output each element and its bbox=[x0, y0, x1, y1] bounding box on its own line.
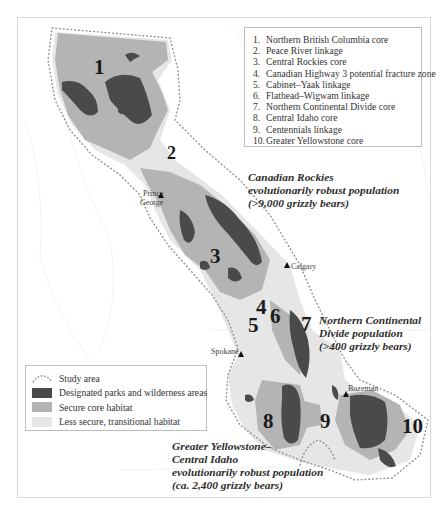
legend-item: 6.Flathead–Wigwam linkage bbox=[253, 90, 421, 101]
habitat-key: Study area Designated parks and wilderne… bbox=[25, 365, 207, 431]
legend-item: 5.Cabinet–Yaak linkage bbox=[253, 79, 421, 90]
triangle-marker-icon bbox=[238, 351, 244, 357]
corridor-legend: 1.Northern British Columbia core 2.Peace… bbox=[244, 27, 422, 147]
key-row-parks: Designated parks and wilderness areas bbox=[32, 386, 206, 401]
legend-item: 4.Canadian Highway 3 potential fracture … bbox=[253, 68, 421, 79]
region-number-3: 3 bbox=[210, 246, 221, 267]
label-greater-yellowstone: Greater Yellowstone– Central Idaho evolu… bbox=[172, 440, 323, 492]
legend-item: 9.Centennials linkage bbox=[253, 124, 421, 135]
key-row-secure-core: Secure core habitat bbox=[32, 400, 206, 415]
legend-item: 8.Central Idaho core bbox=[253, 112, 421, 123]
light-swatch-icon bbox=[32, 417, 52, 427]
region-number-10: 10 bbox=[402, 416, 423, 437]
region-number-9: 9 bbox=[320, 411, 331, 432]
key-row-study-area: Study area bbox=[32, 371, 206, 386]
region-number-6: 6 bbox=[270, 306, 281, 327]
region-number-5: 5 bbox=[248, 315, 259, 336]
city-calgary: Calgary bbox=[291, 262, 316, 271]
legend-item: 10.Greater Yellowstone core bbox=[253, 135, 421, 146]
legend-item: 7.Northern Continental Divide core bbox=[253, 101, 421, 112]
legend-item: 2.Peace River linkage bbox=[253, 45, 421, 56]
region-number-8: 8 bbox=[263, 411, 274, 432]
region-number-1: 1 bbox=[94, 57, 105, 78]
label-northern-continental-divide: Northern Continental Divide population (… bbox=[319, 314, 421, 353]
dotted-outline-icon bbox=[32, 373, 52, 383]
legend-item: 1.Northern British Columbia core bbox=[253, 34, 421, 45]
city-bozeman: Bozeman bbox=[348, 384, 378, 393]
triangle-marker-icon bbox=[284, 262, 290, 268]
legend-item: 3.Central Rockies core bbox=[253, 56, 421, 67]
city-spokane: Spokane bbox=[211, 347, 239, 356]
dark-swatch-icon bbox=[32, 388, 52, 398]
label-canadian-rockies: Canadian Rockies evolutionarily robust p… bbox=[248, 171, 399, 210]
medium-swatch-icon bbox=[32, 402, 52, 412]
triangle-marker-icon bbox=[158, 192, 164, 198]
region-number-2: 2 bbox=[167, 143, 176, 164]
key-row-transitional: Less secure, transitional habitat bbox=[32, 415, 206, 430]
region-number-7: 7 bbox=[301, 314, 312, 335]
